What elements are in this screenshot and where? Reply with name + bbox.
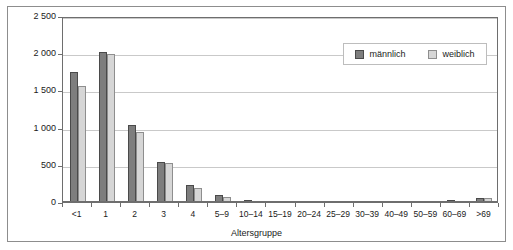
x-axis-tick-label: 5–9	[207, 209, 236, 219]
x-axis-tick-mark	[149, 203, 150, 207]
x-axis-tick-mark	[178, 203, 179, 207]
x-axis-tick-mark	[236, 203, 237, 207]
x-axis-tick-label: 30–39	[353, 209, 382, 219]
y-axis-tick-label: 500	[10, 161, 56, 170]
bar-female	[78, 86, 86, 202]
x-axis-tick-mark	[295, 203, 296, 207]
x-axis-tick-mark	[324, 203, 325, 207]
x-axis-title: Altersgruppe	[0, 228, 513, 238]
x-axis-tick-mark	[91, 203, 92, 207]
x-axis-tick-label: 2	[120, 209, 149, 219]
bar-group	[150, 18, 179, 202]
y-axis-tick-label: 2 000	[10, 49, 56, 58]
bar-male	[157, 162, 165, 202]
bar-group	[121, 18, 150, 202]
y-axis-tick-label: 0	[10, 198, 56, 207]
legend-swatch-male-icon	[355, 50, 364, 59]
x-axis-tick-mark	[440, 203, 441, 207]
zero-baseline	[63, 201, 497, 202]
bar-group	[296, 18, 325, 202]
chart-figure: Erkrankungen/100 000 Einwohner 05001 000…	[0, 0, 513, 250]
x-axis-tick-label: >69	[469, 209, 498, 219]
x-axis-tick-mark	[62, 203, 63, 207]
x-axis-tick-label: 15–19	[265, 209, 294, 219]
x-axis-tick-label: <1	[62, 209, 91, 219]
bar-group	[92, 18, 121, 202]
bar-group	[179, 18, 208, 202]
legend-item-male: männlich	[355, 49, 405, 59]
x-axis-tick-label: 40–49	[382, 209, 411, 219]
x-axis-tick-label: 25–29	[324, 209, 353, 219]
bar-male	[99, 52, 107, 202]
x-axis-tick-label: 50–59	[411, 209, 440, 219]
x-axis-tick-label: 60–69	[440, 209, 469, 219]
bar-female	[136, 132, 144, 202]
x-axis-tick-mark	[207, 203, 208, 207]
x-axis-tick-mark	[265, 203, 266, 207]
x-axis-tick-mark	[469, 203, 470, 207]
x-axis-tick-label: 10–14	[236, 209, 265, 219]
bar-group	[208, 18, 237, 202]
x-axis-tick-label: 3	[149, 209, 178, 219]
bar-female	[165, 163, 173, 202]
x-axis-tick-mark	[382, 203, 383, 207]
y-axis-tick-label: 2 500	[10, 12, 56, 21]
bar-male	[186, 185, 194, 202]
bar-group	[63, 18, 92, 202]
legend-label-female: weiblich	[442, 49, 474, 59]
x-axis-tick-label: 20–24	[295, 209, 324, 219]
bar-female	[194, 188, 202, 203]
x-axis-tick-mark	[411, 203, 412, 207]
bar-group	[266, 18, 295, 202]
legend-item-female: weiblich	[428, 49, 474, 59]
bar-female	[107, 54, 115, 202]
legend-label-male: männlich	[369, 49, 405, 59]
legend-swatch-female-icon	[428, 50, 437, 59]
chart-legend: männlich weiblich	[343, 43, 487, 65]
y-axis-tick-label: 1 000	[10, 124, 56, 133]
x-axis-tick-mark	[498, 203, 499, 207]
y-axis-tick-label: 1 500	[10, 86, 56, 95]
x-axis-tick-label: 4	[178, 209, 207, 219]
x-axis-tick-mark	[353, 203, 354, 207]
x-axis-tick-label: 1	[91, 209, 120, 219]
bar-male	[128, 125, 136, 202]
bar-male	[70, 72, 78, 202]
x-axis-tick-mark	[120, 203, 121, 207]
bar-group	[237, 18, 266, 202]
